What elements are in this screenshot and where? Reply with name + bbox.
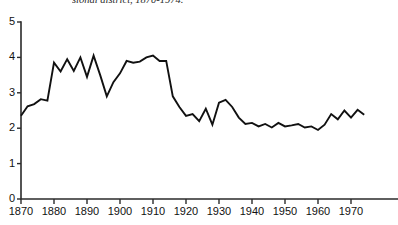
axis-lines: [21, 22, 398, 199]
y-axis-tick-label: 0: [1, 192, 15, 204]
x-axis-tick-label: 1890: [70, 205, 104, 217]
y-axis-tick-label: 4: [1, 50, 15, 62]
y-axis-tick-label: 3: [1, 86, 15, 98]
x-axis-tick-label: 1960: [301, 205, 335, 217]
x-axis-tick-label: 1970: [334, 205, 368, 217]
figure-container: sional district, 1870-1974. 012345 18701…: [0, 0, 398, 225]
data-series-line: [21, 56, 364, 130]
x-axis-tick-label: 1900: [103, 205, 137, 217]
x-axis-tick-label: 1870: [4, 205, 38, 217]
y-axis-tick-label: 5: [1, 15, 15, 27]
x-axis-tick-label: 1880: [37, 205, 71, 217]
y-axis-tick-label: 2: [1, 121, 15, 133]
x-axis-tick-label: 1910: [136, 205, 170, 217]
line-chart-plot: [0, 0, 398, 225]
x-axis-tick-label: 1930: [202, 205, 236, 217]
x-axis-tick-label: 1920: [169, 205, 203, 217]
x-axis-tick-label: 1950: [268, 205, 302, 217]
x-axis-tick-label: 1940: [235, 205, 269, 217]
y-axis-tick-label: 1: [1, 157, 15, 169]
